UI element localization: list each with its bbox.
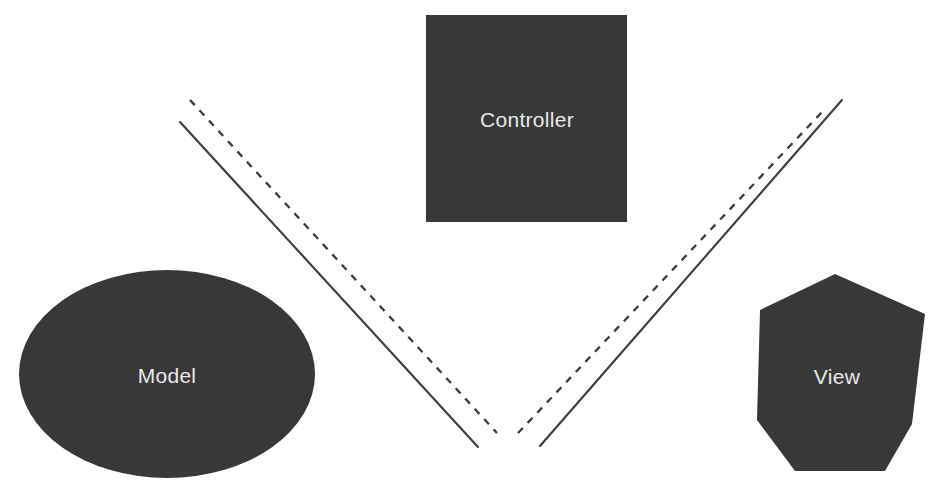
view-label: View — [814, 365, 861, 388]
controller-label: Controller — [480, 108, 574, 131]
mvc-diagram: Controller Model View — [0, 0, 952, 491]
node-model[interactable]: Model — [19, 270, 315, 478]
node-view[interactable]: View — [757, 274, 925, 471]
node-controller[interactable]: Controller — [426, 15, 627, 222]
diagram-canvas: Controller Model View — [0, 0, 952, 491]
model-label: Model — [138, 364, 197, 387]
